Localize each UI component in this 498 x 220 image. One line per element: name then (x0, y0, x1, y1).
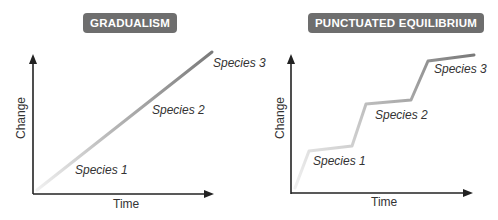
y-axis-label: Change (273, 97, 287, 139)
species-3-label: Species 3 (434, 62, 487, 76)
x-axis-label: Time (371, 195, 398, 209)
x-axis-arrow-icon (463, 189, 473, 197)
species-2-label: Species 2 (152, 103, 205, 117)
species-3-label: Species 3 (213, 56, 266, 70)
y-axis-arrow-icon (287, 54, 295, 64)
evolution-models-diagram: Species 1 Species 2 Species 3 Time Chang… (0, 0, 498, 220)
x-axis-label: Time (113, 197, 140, 211)
species-1-label: Species 1 (75, 163, 128, 177)
gradualism-graph: Species 1 Species 2 Species 3 Time Chang… (14, 52, 266, 211)
species-1-label: Species 1 (313, 154, 366, 168)
y-axis-label: Change (14, 97, 28, 139)
species-2-label: Species 2 (375, 108, 428, 122)
y-axis-arrow-icon (29, 54, 37, 64)
punctuated-equilibrium-graph: Species 1 Species 2 Species 3 Time Chang… (273, 54, 487, 209)
x-axis-arrow-icon (204, 190, 214, 198)
